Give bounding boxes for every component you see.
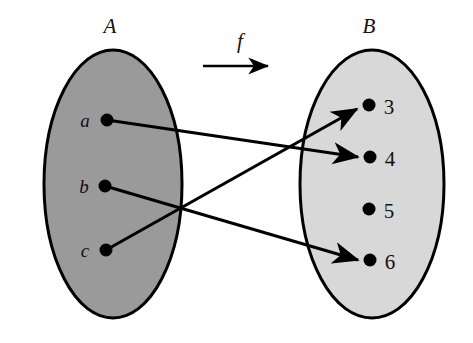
- element-label-3: 3: [384, 95, 395, 119]
- element-dot-5: [363, 203, 376, 216]
- element-dot-c: [100, 244, 113, 257]
- set-a-label: A: [102, 14, 117, 38]
- element-dot-3: [363, 99, 376, 112]
- element-label-4: 4: [385, 147, 396, 171]
- diagram-canvas: A B f a b c 3 4 5 6: [0, 0, 473, 343]
- element-label-a: a: [80, 110, 90, 131]
- element-dot-6: [364, 254, 377, 267]
- element-label-c: c: [81, 240, 90, 261]
- function-mapping-figure: A B f a b c 3 4 5 6: [0, 0, 473, 343]
- element-label-b: b: [79, 176, 89, 197]
- element-label-6: 6: [385, 250, 396, 274]
- function-label: f: [237, 29, 246, 53]
- set-b-ellipse: [300, 50, 444, 318]
- element-dot-b: [99, 180, 112, 193]
- set-b-label: B: [363, 14, 376, 38]
- element-label-5: 5: [384, 199, 395, 223]
- element-dot-4: [364, 151, 377, 164]
- set-a-ellipse: [44, 50, 182, 318]
- element-dot-a: [101, 114, 114, 127]
